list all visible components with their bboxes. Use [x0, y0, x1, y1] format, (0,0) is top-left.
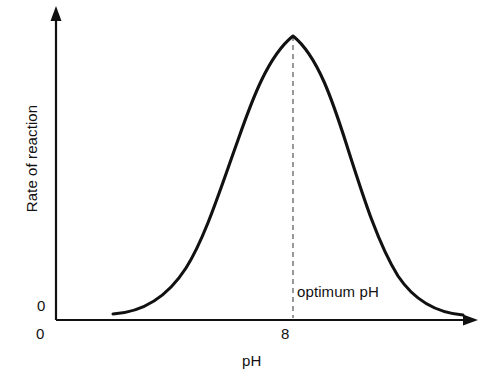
x-axis-title: pH — [242, 352, 261, 369]
x-axis-tick-0: 0 — [36, 325, 44, 342]
x-axis-tick-8: 8 — [281, 325, 289, 342]
optimum-ph-annotation: optimum pH — [297, 283, 379, 300]
chart-plot-area — [0, 0, 494, 385]
y-axis-title: Rate of reaction — [23, 79, 40, 239]
x-axis — [56, 315, 478, 326]
y-axis — [51, 6, 62, 320]
y-axis-tick-0: 0 — [37, 297, 45, 314]
chart-container: Rate of reaction pH 0 0 8 optimum pH — [0, 0, 494, 385]
rate-of-reaction-curve — [113, 36, 463, 315]
